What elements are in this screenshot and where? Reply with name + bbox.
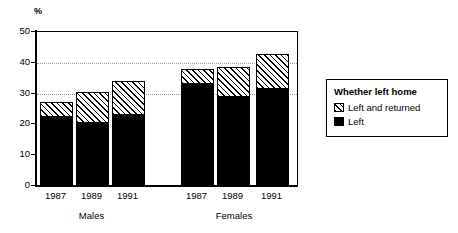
x-axis-tick-label: 1991: [255, 190, 288, 201]
legend-item-left: Left: [334, 116, 447, 127]
x-axis-tick-label: 1987: [39, 190, 72, 201]
x-axis-group-label: Males: [39, 210, 144, 221]
bar-segment-left: [76, 123, 109, 186]
bar-segment-left-and-returned: [256, 54, 289, 89]
x-axis-line: [35, 185, 297, 187]
legend: Whether left home Left and returned Left: [326, 79, 448, 137]
bar: [256, 54, 289, 186]
y-axis-tick-label: 30: [2, 88, 30, 98]
y-axis-tick-mark: [31, 123, 36, 124]
y-axis-tick-mark: [31, 185, 36, 186]
legend-swatch-hatched-icon: [334, 103, 344, 112]
y-axis-tick-label: 0: [2, 180, 30, 190]
y-axis-unit-label: %: [34, 6, 42, 16]
legend-title: Whether left home: [334, 86, 447, 97]
y-axis-tick-mark: [31, 62, 36, 63]
x-axis-tick-label: 1987: [180, 190, 213, 201]
bar-segment-left-and-returned: [181, 69, 214, 84]
bar-segment-left: [181, 84, 214, 186]
bar-segment-left-and-returned: [217, 67, 250, 97]
y-axis-tick-mark: [31, 93, 36, 94]
bar-segment-left-and-returned: [76, 92, 109, 123]
plot-area: [36, 31, 298, 187]
y-axis-line: [35, 30, 37, 187]
y-axis-tick-mark: [31, 154, 36, 155]
bar-chart: % 01020304050 198719891991198719891991 M…: [0, 0, 458, 233]
x-axis-tick-label: 1991: [111, 190, 144, 201]
x-axis-group-label: Females: [180, 210, 288, 221]
bar-segment-left: [256, 89, 289, 186]
bar: [181, 69, 214, 186]
y-axis-tick-label: 20: [2, 118, 30, 128]
y-axis-tick-label: 40: [2, 57, 30, 67]
bar-segment-left: [217, 97, 250, 186]
bar-segment-left-and-returned: [40, 102, 73, 117]
bar: [112, 81, 145, 186]
bar: [217, 67, 250, 186]
bar-segment-left: [40, 117, 73, 186]
y-axis-tick-label: 50: [2, 26, 30, 36]
bar: [76, 92, 109, 186]
bar-segment-left-and-returned: [112, 81, 145, 114]
y-axis-tick-label: 10: [2, 149, 30, 159]
legend-item-left-and-returned: Left and returned: [334, 102, 447, 113]
legend-item-label: Left: [348, 116, 364, 127]
y-axis-tick-mark: [31, 31, 36, 32]
x-axis-tick-label: 1989: [75, 190, 108, 201]
bar-segment-left: [112, 115, 145, 186]
legend-item-label: Left and returned: [348, 102, 420, 113]
bar: [40, 102, 73, 186]
x-axis-tick-label: 1989: [216, 190, 249, 201]
legend-swatch-solid-icon: [334, 117, 344, 126]
